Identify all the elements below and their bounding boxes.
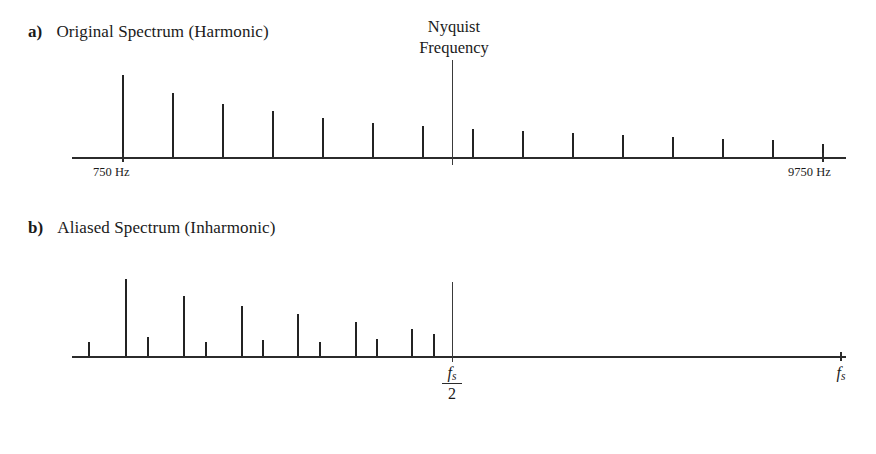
- spectral-line: [572, 133, 574, 157]
- panel-a-axis: [72, 157, 846, 159]
- axis-tick: [122, 153, 124, 162]
- spectral-line: [372, 123, 374, 157]
- spectral-line: [125, 279, 127, 356]
- axis-tick: [822, 153, 824, 162]
- panel-a-left-frequency-label: 750 Hz: [93, 165, 129, 180]
- spectral-line: [411, 329, 413, 356]
- spectral-line: [88, 342, 90, 356]
- fs2-numerator: fs: [442, 364, 462, 384]
- spectral-line: [222, 104, 224, 157]
- panel-b-stems: [0, 199, 876, 356]
- spectral-line: [262, 340, 264, 356]
- spectral-line: [376, 339, 378, 356]
- spectral-line: [319, 342, 321, 356]
- spectral-line: [622, 135, 624, 157]
- spectral-line: [772, 140, 774, 157]
- spectral-line: [172, 93, 174, 157]
- spectral-line: [355, 322, 357, 356]
- nyquist-label-line-2: Frequency: [398, 37, 510, 58]
- spectral-line: [672, 137, 674, 157]
- spectral-line: [272, 111, 274, 157]
- spectral-line: [297, 314, 299, 356]
- fs2-numerator-subscript: s: [452, 370, 456, 382]
- nyquist-frequency-label: Nyquist Frequency: [398, 16, 510, 58]
- fs2-denominator: 2: [424, 384, 480, 403]
- spectral-line: [433, 334, 435, 356]
- panel-b-axis: [72, 356, 846, 358]
- spectral-line: [122, 75, 124, 157]
- spectral-line: [147, 337, 149, 356]
- panel-a-right-frequency-label: 9750 Hz: [788, 165, 831, 180]
- spectral-line: [241, 306, 243, 356]
- half-sampling-frequency-label: fs 2: [424, 364, 480, 403]
- nyquist-label-line-1: Nyquist: [398, 16, 510, 37]
- nyquist-frequency-line: [452, 60, 453, 165]
- spectral-line: [205, 342, 207, 356]
- spectral-line: [522, 131, 524, 157]
- spectrum-figure: a)Original Spectrum (Harmonic) Nyquist F…: [0, 0, 876, 454]
- spectral-line: [183, 296, 185, 356]
- spectral-line: [472, 129, 474, 157]
- fs-subscript: s: [841, 370, 845, 382]
- sampling-frequency-label: fs: [818, 364, 864, 382]
- axis-tick: [840, 352, 842, 361]
- spectral-line: [322, 118, 324, 157]
- spectral-line: [722, 139, 724, 157]
- half-sampling-frequency-line: [452, 282, 453, 362]
- spectral-line: [422, 126, 424, 157]
